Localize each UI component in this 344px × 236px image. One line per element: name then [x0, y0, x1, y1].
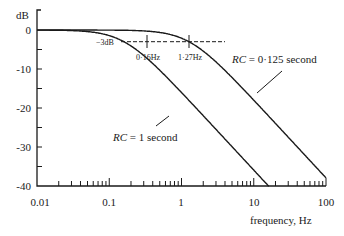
x-tick-labels: 0.01 0.1 1 10 100	[30, 196, 334, 208]
x-tick-0.1: 0.1	[102, 196, 116, 208]
axes	[37, 10, 326, 186]
y-tick-10: -10	[16, 63, 31, 75]
x-tick-10: 10	[249, 196, 261, 208]
y-tick-20: -20	[16, 102, 31, 114]
x-ticks	[59, 178, 326, 186]
cutoff-label-1.27: 1·27Hz	[178, 53, 202, 62]
bode-plot: 0 -10 -20 -30 -40 dB 0.01 0.1 1 10 100 f…	[0, 0, 344, 236]
leader-rc-1s	[156, 116, 169, 126]
y-tick-40: -40	[16, 180, 31, 192]
y-axis-label: dB	[16, 9, 29, 21]
y-tick-labels: 0 -10 -20 -30 -40	[16, 24, 31, 192]
leader-rc-0125s	[257, 71, 282, 93]
cutoff-label-0.16: 0·16Hz	[136, 53, 160, 62]
x-axis-label: frequency, Hz	[250, 214, 312, 226]
y-tick-30: -30	[16, 141, 31, 153]
y-tick-0: 0	[26, 24, 32, 36]
x-tick-100: 100	[318, 196, 335, 208]
minus-3db-label: −3dB	[96, 38, 114, 47]
label-rc-1s: RC = 1 second	[112, 131, 178, 143]
y-ticks	[37, 50, 42, 167]
label-rc-0125s: RC = 0·125 second	[231, 53, 317, 65]
x-tick-0.01: 0.01	[30, 196, 49, 208]
y-axis	[37, 10, 326, 186]
x-tick-1: 1	[178, 196, 184, 208]
